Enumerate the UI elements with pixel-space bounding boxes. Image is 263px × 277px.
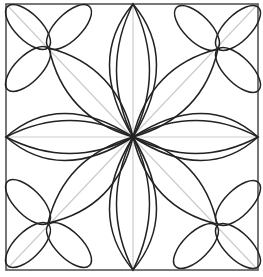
clover-leaf: [166, 216, 225, 275]
clover-leaf: [0, 39, 58, 98]
arc-top-right-v: [133, 4, 157, 137]
arc-bottom-left: [6, 137, 133, 161]
petal-diag-top-right: [133, 49, 218, 137]
petal-diag-top-left: [49, 48, 133, 137]
arc-top-left: [6, 114, 133, 138]
petal-diag-bottom-right: [133, 137, 217, 224]
clover-leaf: [0, 172, 58, 231]
arc-bottom-right-v: [133, 137, 157, 270]
rosette-diagram: [0, 0, 263, 277]
clover-top-left: [0, 0, 99, 99]
clover-leaf: [39, 215, 98, 274]
